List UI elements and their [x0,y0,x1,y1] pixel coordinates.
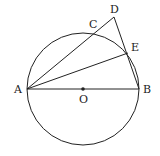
label-c: C [89,18,97,31]
segment-ae [27,53,128,89]
center-point-o [81,87,85,91]
geometry-diagram: A B O C D E [0,0,160,156]
label-e: E [131,41,139,54]
label-d: D [110,3,119,16]
label-o: O [79,93,88,106]
label-a: A [13,83,23,96]
label-b: B [143,83,151,96]
